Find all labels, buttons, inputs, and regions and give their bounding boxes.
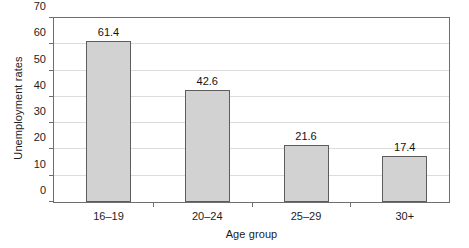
y-axis-tick [49,43,54,44]
bar-value-label: 61.4 [98,26,119,38]
x-axis-category-label: 16–19 [93,210,124,222]
y-axis-tick [49,175,54,176]
y-axis-tick-label: 0 [40,184,46,196]
bar: 61.4 [86,41,131,202]
x-axis-tick [350,202,351,207]
x-axis-category-label: 30+ [395,210,414,222]
y-axis-tick-label: 50 [34,53,46,65]
x-axis-tick [153,202,154,207]
bar: 21.6 [284,145,329,202]
x-axis-category-label: 25–29 [291,210,322,222]
y-axis-tick-label: 30 [34,105,46,117]
y-axis-tick [49,122,54,123]
plot-area: 010203040506070 61.442.621.617.4 16–1920… [53,17,450,203]
y-axis-tick [49,148,54,149]
bar-value-label: 17.4 [394,141,415,153]
x-axis-title: Age group [53,228,450,240]
y-axis-tick [49,96,54,97]
bar: 17.4 [382,156,427,202]
y-axis-tick-label: 40 [34,79,46,91]
y-axis-tick-label: 60 [34,26,46,38]
y-axis-tick-label: 10 [34,158,46,170]
y-axis-tick-label: 70 [34,0,46,12]
y-axis-tick [49,70,54,71]
x-axis-category-label: 20–24 [192,210,223,222]
bar-chart-figure: Unemployment rates 010203040506070 61.44… [0,0,469,248]
bar-value-label: 42.6 [197,75,218,87]
y-axis-tick [49,201,54,202]
y-axis-tick [49,17,54,18]
bar: 42.6 [185,90,230,202]
bar-value-label: 21.6 [295,130,316,142]
y-axis-title: Unemployment rates [12,18,24,198]
x-axis-tick [252,202,253,207]
y-axis-tick-label: 20 [34,131,46,143]
